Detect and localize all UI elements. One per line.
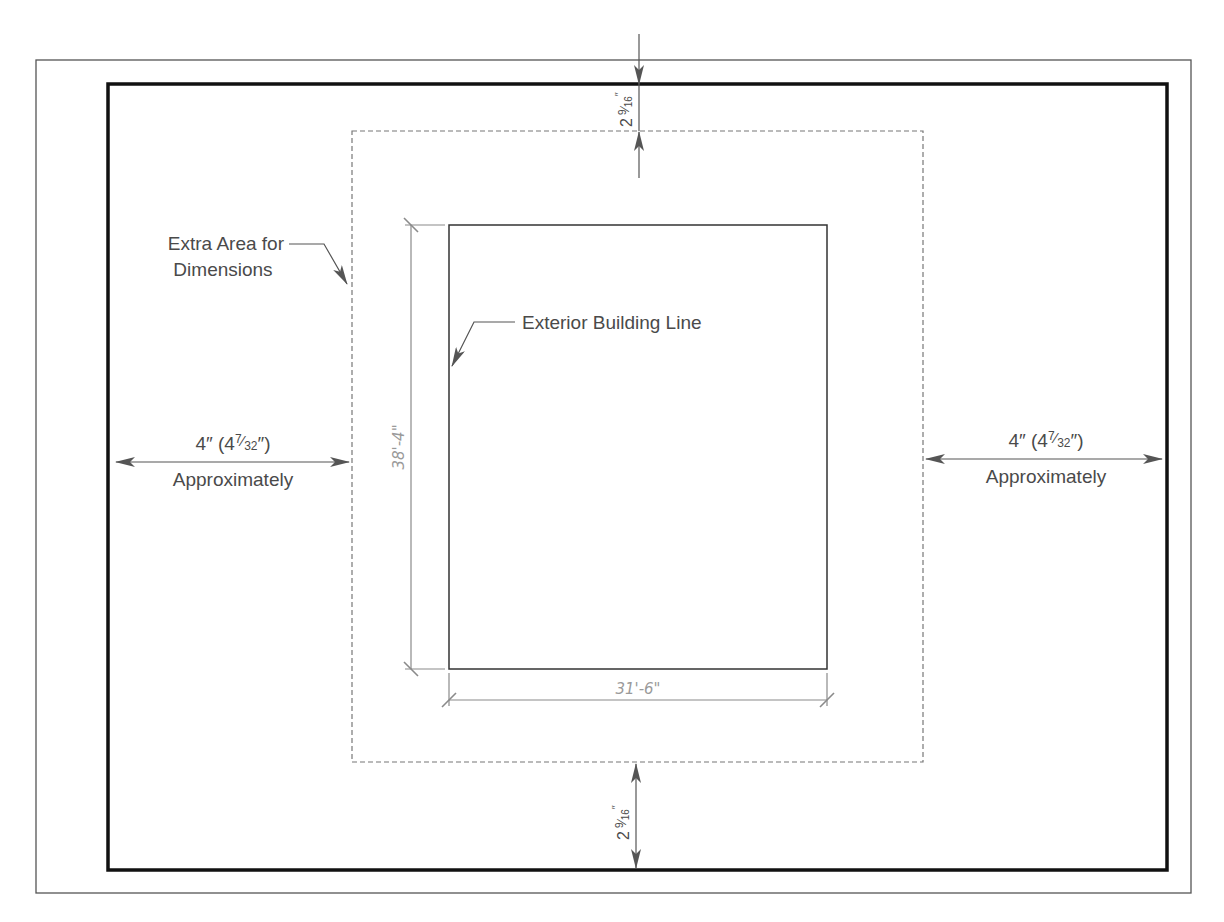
exterior-building-outline bbox=[449, 225, 827, 669]
extra-area-label-line1: Extra Area for bbox=[168, 233, 285, 254]
site-layout-diagram: 38'-4" 31'-6" 29⁄16″ 29⁄16″ 4″ (47⁄32″) … bbox=[0, 0, 1224, 922]
extra-area-leader-arrow bbox=[289, 244, 347, 284]
building-height-label: 38'-4" bbox=[390, 424, 408, 469]
bottom-margin-label: 29⁄16″ bbox=[610, 805, 632, 840]
top-margin-label: 29⁄16″ bbox=[613, 92, 635, 127]
right-margin-approx-label: Approximately bbox=[986, 466, 1107, 487]
right-margin-label: 4″ (47⁄32″) bbox=[1008, 429, 1083, 451]
extra-area-label-line2: Dimensions bbox=[173, 259, 272, 280]
exterior-building-line-leader-arrow bbox=[452, 322, 515, 366]
left-margin-label: 4″ (47⁄32″) bbox=[195, 432, 270, 454]
building-width-label: 31'-6" bbox=[615, 680, 660, 698]
left-margin-approx-label: Approximately bbox=[173, 469, 294, 490]
exterior-building-line-label: Exterior Building Line bbox=[522, 312, 702, 333]
building-height-dimension bbox=[404, 218, 445, 676]
